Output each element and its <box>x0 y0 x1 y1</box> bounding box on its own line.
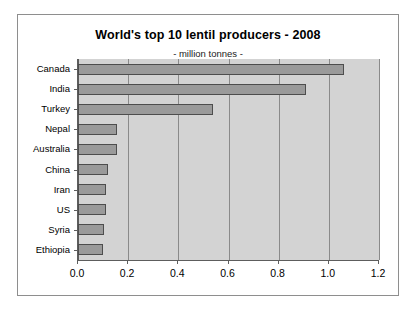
y-label-australia: Australia <box>33 139 70 159</box>
x-tick-label-0.6: 0.6 <box>220 267 235 279</box>
y-label-india: India <box>49 79 70 99</box>
x-tick-label-1.2: 1.2 <box>371 267 386 279</box>
bar-series <box>78 59 379 260</box>
bar-row <box>78 139 379 159</box>
gridline-1.2 <box>379 59 380 260</box>
x-tick-label-0.8: 0.8 <box>270 267 285 279</box>
y-label-turkey: Turkey <box>41 99 70 119</box>
x-tick <box>328 261 329 264</box>
plot-area <box>77 59 379 260</box>
bar-nepal <box>78 124 117 135</box>
y-label-us: US <box>57 200 70 220</box>
bar-row <box>78 119 379 139</box>
x-tick-label-1.0: 1.0 <box>321 267 336 279</box>
bar-row <box>78 200 379 220</box>
bar-iran <box>78 184 106 195</box>
bar-ethiopia <box>78 244 103 255</box>
chart-subtitle: - million tonnes - <box>18 48 398 59</box>
y-label-iran: Iran <box>54 180 70 200</box>
chart-title: World's top 10 lentil producers - 2008 <box>18 28 398 42</box>
x-tick <box>177 261 178 264</box>
bar-row <box>78 240 379 260</box>
x-tick <box>278 261 279 264</box>
y-label-canada: Canada <box>37 59 70 79</box>
bar-china <box>78 164 108 175</box>
x-tick <box>77 261 78 264</box>
bar-australia <box>78 144 117 155</box>
x-tick-label-0.0: 0.0 <box>70 267 85 279</box>
bar-us <box>78 204 106 215</box>
bar-row <box>78 79 379 99</box>
bar-turkey <box>78 104 213 115</box>
bar-canada <box>78 64 344 75</box>
x-tick <box>378 261 379 264</box>
y-axis-category-labels: CanadaIndiaTurkeyNepalAustraliaChinaIran… <box>18 59 74 260</box>
bar-row <box>78 59 379 79</box>
bar-row <box>78 220 379 240</box>
x-tick <box>127 261 128 264</box>
y-label-nepal: Nepal <box>45 119 70 139</box>
bar-row <box>78 160 379 180</box>
bar-row <box>78 180 379 200</box>
x-tick-label-0.4: 0.4 <box>170 267 185 279</box>
bar-row <box>78 99 379 119</box>
bar-syria <box>78 224 104 235</box>
x-tick <box>228 261 229 264</box>
x-tick-label-0.2: 0.2 <box>120 267 135 279</box>
y-label-syria: Syria <box>48 220 70 240</box>
y-label-ethiopia: Ethiopia <box>36 240 70 260</box>
y-label-china: China <box>45 160 70 180</box>
chart-frame: World's top 10 lentil producers - 2008 -… <box>17 14 399 296</box>
bar-india <box>78 84 306 95</box>
